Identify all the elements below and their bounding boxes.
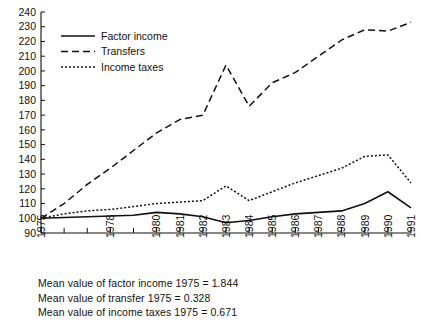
x-tick-label: 1978 [104,214,116,238]
chart-legend: Factor incomeTransfersIncome taxes [61,30,168,73]
x-tick-label: 1991 [405,214,417,238]
caption-line-income-taxes: Mean value of income taxes 1975 = 0.671 [38,305,408,320]
caption-line-factor-income: Mean value of factor income 1975 = 1.844 [38,276,408,291]
legend-label: Income taxes [101,61,163,73]
data-series-group [41,22,411,222]
x-tick-label: 1990 [382,214,394,238]
chart-container: 9010011012013014015016017018019020021022… [0,0,421,272]
x-tick-label: 1986 [289,214,301,238]
x-tick-label: 1984 [243,214,255,238]
y-tick-label: 240 [18,6,36,18]
x-tick-label: 1988 [335,214,347,238]
caption-line-transfer: Mean value of transfer 1975 = 0.328 [38,291,408,306]
x-tick-label: 1987 [312,214,324,238]
line-chart: 9010011012013014015016017018019020021022… [0,0,421,272]
x-axis: 1975197819801981198219831984198519861987… [35,214,417,238]
y-tick-label: 180 [18,94,36,106]
series-line-income-taxes [41,155,411,218]
y-tick-label: 140 [18,153,36,165]
y-tick-label: 120 [18,183,36,195]
y-tick-label: 230 [18,20,36,32]
caption-block: Mean value of factor income 1975 = 1.844… [38,276,408,320]
series-line-transfers [41,22,411,218]
y-tick-label: 190 [18,79,36,91]
legend-label: Factor income [101,30,168,42]
x-tick-label: 1980 [150,214,162,238]
x-tick-label: 1981 [174,214,186,238]
y-tick-label: 130 [18,168,36,180]
y-tick-label: 170 [18,109,36,121]
y-tick-label: 110 [19,197,36,209]
y-tick-label: 200 [18,65,36,77]
figure: 9010011012013014015016017018019020021022… [0,0,421,329]
y-axis: 9010011012013014015016017018019020021022… [18,6,45,239]
x-tick-label: 1989 [359,214,371,238]
y-tick-label: 150 [18,138,36,150]
y-tick-label: 220 [18,35,36,47]
y-tick-label: 210 [18,50,36,62]
x-tick-label: 1983 [220,214,232,238]
legend-label: Transfers [101,45,145,57]
y-tick-label: 100 [18,212,36,224]
y-tick-label: 160 [18,124,36,136]
